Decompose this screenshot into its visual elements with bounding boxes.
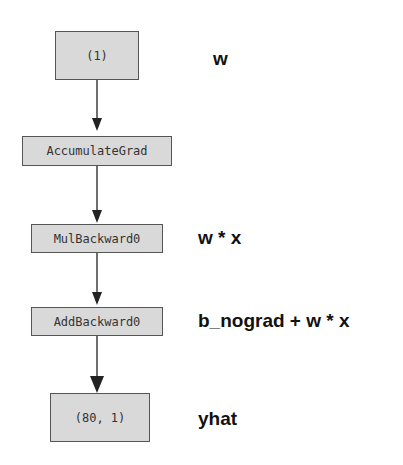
node-label: (1) <box>86 49 108 63</box>
annotation-yhat: yhat <box>198 408 237 430</box>
node-label: (80, 1) <box>75 411 126 425</box>
annotation-b-nograd-plus-wx: b_nograd + w * x <box>198 310 350 332</box>
node-add-backward: AddBackward0 <box>31 307 163 336</box>
node-label: AddBackward0 <box>54 315 141 329</box>
node-label: AccumulateGrad <box>46 144 147 158</box>
node-label: MulBackward0 <box>54 232 141 246</box>
annotation-w: w <box>213 48 228 70</box>
node-mul-backward: MulBackward0 <box>31 224 163 253</box>
annotation-w-times-x: w * x <box>198 227 241 249</box>
node-tensor-w: (1) <box>55 31 139 80</box>
node-accumulate-grad: AccumulateGrad <box>22 136 172 166</box>
node-tensor-yhat: (80, 1) <box>50 393 150 442</box>
